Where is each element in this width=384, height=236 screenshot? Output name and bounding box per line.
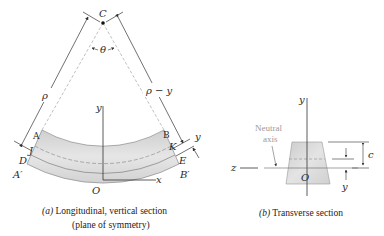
y-offset-label: y xyxy=(194,131,201,142)
caption-b-text: Transverse section xyxy=(270,208,343,218)
theta-arrow-left xyxy=(92,48,98,50)
point-A: A xyxy=(32,131,40,141)
rho-dimension-line xyxy=(22,17,88,144)
neutral-axis-pointer xyxy=(272,146,276,166)
caption-b-prefix: (b) xyxy=(259,208,270,219)
rho-y-extension-top-right xyxy=(106,12,123,22)
center-point xyxy=(101,21,105,25)
x-axis-label: x xyxy=(156,174,162,185)
origin-label-b: O xyxy=(301,172,309,183)
caption-a-prefix: (a) xyxy=(42,206,53,217)
radial-dashed-left xyxy=(42,23,103,130)
caption-a-line2: (plane of symmetry) xyxy=(72,220,150,231)
longitudinal-section: ρ ρ − y y C θ y x O A B J K D E A′ B′ (a… xyxy=(12,8,201,231)
point-B: B xyxy=(163,130,170,140)
transverse-section: y z Neutral axis O c y (b) Transverse se… xyxy=(230,94,374,219)
center-label: C xyxy=(99,8,107,19)
bending-diagram: ρ ρ − y y C θ y x O A B J K D E A′ B′ (a… xyxy=(0,0,384,236)
caption-a-text: Longitudinal, vertical section xyxy=(53,206,167,216)
point-A-prime: A′ xyxy=(12,169,23,180)
y-axis-label: y xyxy=(95,102,102,113)
point-J: J xyxy=(27,145,34,156)
neutral-axis-label-line2: axis xyxy=(263,134,278,144)
z-axis-label: z xyxy=(230,162,237,173)
radial-dashed-right xyxy=(103,23,164,130)
caption-a-line1: (a) Longitudinal, vertical section xyxy=(42,206,167,217)
neutral-axis-label-line1: Neutral xyxy=(255,123,282,133)
rho-minus-y-label: ρ − y xyxy=(145,85,173,96)
y-axis-label-b: y xyxy=(298,94,305,105)
c-label: c xyxy=(368,149,374,160)
rho-y-dimension-line xyxy=(118,17,183,143)
y-dim-label: y xyxy=(341,181,348,192)
point-E: E xyxy=(178,155,187,166)
rho-label: ρ xyxy=(41,90,48,101)
y-offset-arrow xyxy=(193,148,199,158)
theta-arrow-right xyxy=(108,48,114,50)
origin-label: O xyxy=(92,185,100,196)
point-K: K xyxy=(168,141,177,152)
theta-label: θ xyxy=(100,44,106,55)
caption-b: (b) Transverse section xyxy=(259,208,343,219)
point-D: D xyxy=(18,155,27,166)
rho-extension-top-left xyxy=(83,12,100,22)
point-B-prime: B′ xyxy=(179,169,190,180)
